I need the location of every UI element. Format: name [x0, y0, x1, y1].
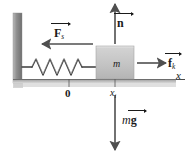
- normal-force-symbol: n: [117, 16, 124, 30]
- initial-position-subscript: i: [114, 92, 116, 99]
- friction-force-subscript: k: [172, 62, 175, 71]
- initial-position-label: xi: [110, 88, 116, 99]
- spring-force-subscript: s: [61, 32, 64, 41]
- friction-force-label: fk: [168, 57, 175, 71]
- mass-label: m: [113, 59, 120, 69]
- normal-force-label: n: [117, 17, 124, 29]
- ground: [13, 79, 176, 87]
- spring-force-label: Fs: [54, 27, 64, 41]
- coil-spring: [22, 58, 96, 75]
- spring-force-symbol: F: [54, 26, 61, 40]
- wall: [13, 13, 23, 88]
- origin-label: 0: [65, 88, 71, 99]
- weight-mass-prefix: m: [122, 113, 131, 127]
- weight-label: mg: [122, 114, 137, 126]
- friction-force-symbol: f: [168, 56, 172, 70]
- diagram-canvas: [0, 0, 191, 157]
- x-axis-label: x: [176, 70, 181, 81]
- weight-symbol: g: [131, 113, 137, 127]
- physics-diagram: Fs n fk mg m 0 xi x: [0, 0, 191, 157]
